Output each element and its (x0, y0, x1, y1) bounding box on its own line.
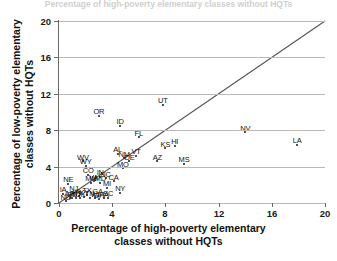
data-point-label: NY (115, 184, 125, 193)
data-point-label: AL (113, 145, 122, 154)
y-tick-8 (54, 130, 59, 131)
y-tick-16 (54, 57, 59, 58)
x-tick-label-16: 16 (267, 208, 278, 219)
x-tick-label-20: 20 (320, 208, 331, 219)
gridline-y-0 (59, 203, 325, 204)
gridline-y-4 (59, 167, 325, 168)
data-point-label: HI (171, 137, 178, 146)
y-tick-label-12: 12 (33, 89, 51, 100)
gridline-y-12 (59, 94, 325, 95)
y-tick-label-16: 16 (33, 52, 51, 63)
data-point-label: NE (63, 175, 73, 184)
gridline-y-8 (59, 130, 325, 131)
x-tick-label-4: 4 (109, 208, 114, 219)
y-tick-20 (54, 21, 59, 22)
x-tick-8 (165, 203, 166, 207)
gridline-y-16 (59, 57, 325, 58)
y-tick-label-0: 0 (33, 198, 51, 209)
y-tick-0 (54, 203, 59, 204)
data-point-label: SC (103, 189, 113, 198)
data-point-label: TX (82, 186, 91, 195)
x-tick-16 (272, 203, 273, 207)
x-tick-4 (112, 203, 113, 207)
y-tick-label-8: 8 (33, 125, 51, 136)
y-axis-title-line2: classes without HQTs (23, 14, 36, 214)
data-point-label: WV (77, 152, 89, 161)
data-point-label: AZ (153, 152, 162, 161)
data-point-label: GA (92, 187, 102, 196)
data-point-label: KS (161, 139, 171, 148)
y-tick-12 (54, 94, 59, 95)
x-tick-12 (219, 203, 220, 207)
x-axis-title-line1: Percentage of high-poverty elementary (0, 222, 337, 235)
x-tick-label-12: 12 (214, 208, 225, 219)
y-tick-4 (54, 167, 59, 168)
data-point-label: LA (293, 136, 302, 145)
y-tick-label-4: 4 (33, 162, 51, 173)
data-point-label: MS (179, 155, 190, 164)
scatter-plot-figure: Percentage of high-poverty elementary cl… (0, 0, 337, 261)
cropped-top-caption: Percentage of high-poverty elementary cl… (0, 0, 337, 10)
data-point-label: UT (158, 96, 168, 105)
y-axis-title: Percentage of low-poverty elementary cla… (10, 14, 36, 214)
x-tick-label-0: 0 (56, 208, 61, 219)
x-tick-0 (59, 203, 60, 207)
gridline-y-20 (59, 21, 325, 22)
plot-area: LANVMSHIKSAZUTFLVTDENMMOALIDORNYCAMINCMD… (59, 21, 325, 203)
data-point-label: AR (65, 189, 75, 198)
y-axis-title-line1: Percentage of low-poverty elementary (10, 14, 23, 214)
x-axis-title: Percentage of high-poverty elementary cl… (0, 222, 337, 248)
y-tick-label-20: 20 (33, 16, 51, 27)
data-point-label: ID (117, 117, 124, 126)
x-axis-title-line2: classes without HQTs (0, 235, 337, 248)
data-point-label: OR (93, 107, 104, 116)
x-tick-20 (325, 203, 326, 207)
x-tick-label-8: 8 (162, 208, 167, 219)
